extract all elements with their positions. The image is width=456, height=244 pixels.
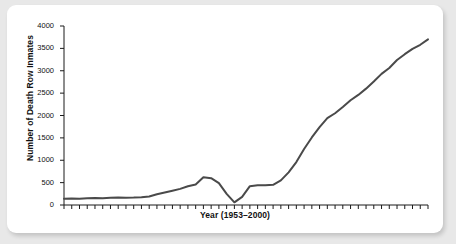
x-axis-title: Year (1953–2000)	[55, 210, 415, 220]
y-tick-label: 4000	[24, 21, 54, 30]
data-series-line	[64, 39, 428, 202]
y-tick-label: 1500	[24, 133, 54, 142]
y-tick-label: 1000	[24, 155, 54, 164]
y-tick-label: 0	[24, 200, 54, 209]
y-tick-label: 3000	[24, 66, 54, 75]
chart-canvas	[7, 5, 443, 233]
y-tick-label: 2500	[24, 88, 54, 97]
y-tick-label: 500	[24, 178, 54, 187]
line-chart: Number of Death Row Inmates 050010001500…	[7, 5, 443, 233]
y-axis-ticks	[60, 26, 64, 205]
x-axis-ticks	[64, 205, 428, 209]
chart-card: Number of Death Row Inmates 050010001500…	[7, 5, 443, 233]
y-tick-label: 3500	[24, 43, 54, 52]
y-tick-label: 2000	[24, 111, 54, 120]
